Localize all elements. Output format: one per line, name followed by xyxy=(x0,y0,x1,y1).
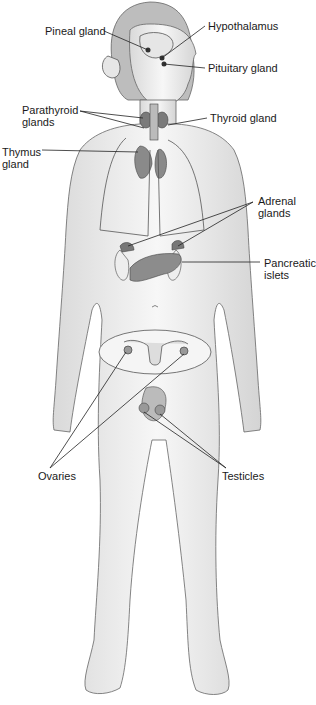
label-pituitary-gland-text: Pituitary gland xyxy=(208,62,278,74)
label-thyroid-gland: Thyroid gland xyxy=(210,112,277,124)
label-adrenal-glands: Adrenal glands xyxy=(258,195,296,219)
label-hypothalamus-text: Hypothalamus xyxy=(208,20,278,32)
label-parathyroid-line1: Parathyroid xyxy=(22,104,78,116)
label-pituitary-gland: Pituitary gland xyxy=(208,62,278,74)
label-pineal-gland-text: Pineal gland xyxy=(45,25,106,37)
label-hypothalamus: Hypothalamus xyxy=(208,20,278,32)
label-thymus-line2: gland xyxy=(2,158,41,170)
label-pancreatic-islets: Pancreatic islets xyxy=(264,257,316,281)
label-ovaries: Ovaries xyxy=(38,470,76,482)
label-testicles-text: Testicles xyxy=(222,470,264,482)
label-pancreatic-line1: Pancreatic xyxy=(264,257,316,269)
label-parathyroid-glands: Parathyroid glands xyxy=(22,104,78,128)
label-adrenal-line2: glands xyxy=(258,207,296,219)
label-thymus-gland: Thymus gland xyxy=(2,146,41,170)
label-pineal-gland: Pineal gland xyxy=(45,25,106,37)
label-thymus-line1: Thymus xyxy=(2,146,41,158)
label-ovaries-text: Ovaries xyxy=(38,470,76,482)
label-pancreatic-line2: islets xyxy=(264,269,316,281)
label-adrenal-line1: Adrenal xyxy=(258,195,296,207)
label-thyroid-gland-text: Thyroid gland xyxy=(210,112,277,124)
label-parathyroid-line2: glands xyxy=(22,116,78,128)
label-testicles: Testicles xyxy=(222,470,264,482)
